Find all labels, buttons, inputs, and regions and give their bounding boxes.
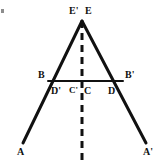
vertex-label-A-prime: A'	[143, 147, 153, 157]
vertex-label-C-prime: C'	[69, 86, 78, 95]
vertex-label-A: A	[17, 147, 24, 157]
vertex-label-D-prime: D'	[51, 86, 61, 96]
geometry-canvas	[0, 0, 166, 163]
vertex-label-E: E	[85, 6, 92, 16]
geometry-figure: E'EBB'D'C'CDAA'	[0, 0, 166, 163]
vertex-label-D: D	[108, 86, 115, 96]
solid-lines-group	[23, 21, 146, 143]
scan-speck-top-left	[1, 9, 4, 13]
vertex-label-B-prime: B'	[125, 70, 134, 80]
vertex-label-B: B	[38, 70, 45, 80]
vertex-label-C: C	[84, 86, 91, 96]
vertex-label-E-prime: E'	[69, 6, 78, 16]
